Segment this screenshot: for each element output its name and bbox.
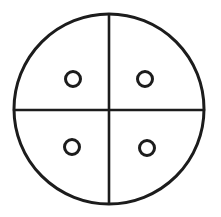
hole-top-right-icon (138, 72, 153, 87)
quadrant-circle-figure (0, 0, 221, 217)
hole-bottom-right-icon (140, 141, 155, 156)
hole-top-left-icon (66, 72, 81, 87)
hole-bottom-left-icon (65, 140, 80, 155)
diagram-canvas (0, 0, 221, 217)
